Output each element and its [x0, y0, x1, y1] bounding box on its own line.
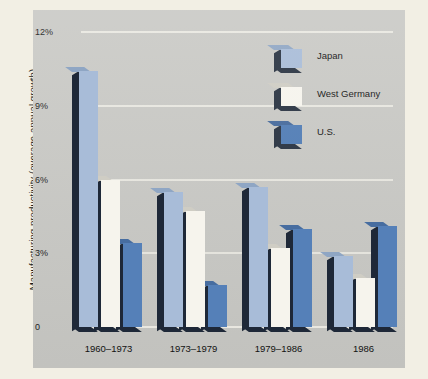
x-axis-label-3: 1979–1986 [255, 343, 303, 354]
x-axis-label-2: 1973–1979 [170, 343, 218, 354]
plot-area: 1960–19731973–19791979–19861986 [57, 10, 399, 368]
bar-group-3 [249, 32, 312, 327]
bar-u-s--4[interactable] [378, 226, 397, 327]
y-axis-tick-12%: 12% [35, 27, 53, 37]
bar-japan-4[interactable] [334, 256, 353, 327]
bar-group-2 [164, 32, 227, 327]
chart-figure: Manufacturing productivity (overage annu… [0, 0, 428, 379]
legend-swatch-japan-icon [281, 49, 302, 68]
bar-west-germany-1[interactable] [101, 180, 120, 328]
bar-west-germany-3[interactable] [271, 248, 290, 327]
bar-group-4 [334, 32, 397, 327]
legend-swatch-west-germany-icon [281, 87, 302, 106]
bar-japan-2[interactable] [164, 192, 183, 327]
y-axis-tick-6%: 6% [35, 175, 48, 185]
y-axis-tick-0: 0 [35, 322, 40, 332]
bar-japan-1[interactable] [79, 71, 98, 327]
x-axis-label-1: 1960–1973 [85, 343, 133, 354]
bar-west-germany-4[interactable] [356, 278, 375, 327]
bar-u-s--2[interactable] [208, 285, 227, 327]
legend-swatch-us-icon [281, 125, 302, 144]
y-axis-tick-3%: 3% [35, 248, 48, 258]
bar-u-s--3[interactable] [293, 229, 312, 327]
plot-panel: 1960–19731973–19791979–19861986 03%6%9%1… [33, 10, 405, 368]
legend-label-west-germany: West Germany [317, 88, 380, 99]
legend-label-japan: Japan [317, 50, 343, 61]
bar-u-s--1[interactable] [123, 243, 142, 327]
bar-west-germany-2[interactable] [186, 211, 205, 327]
y-axis-tick-9%: 9% [35, 101, 48, 111]
x-axis-label-4: 1986 [353, 343, 374, 354]
bar-japan-3[interactable] [249, 187, 268, 327]
bar-group-1 [79, 32, 142, 327]
legend-label-us: U.S. [317, 126, 335, 137]
